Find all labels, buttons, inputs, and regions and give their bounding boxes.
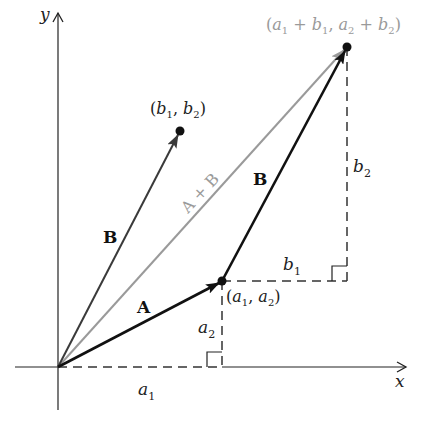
label-point-a: (a1, a2)	[226, 287, 281, 308]
point-b	[176, 127, 185, 136]
point-a	[218, 277, 227, 286]
vector-b-from-origin	[58, 135, 178, 367]
label-point-sum: (a1 + b1, a2 + b2)	[266, 15, 401, 36]
point-sum	[343, 43, 352, 52]
label-a2: a2	[198, 317, 215, 341]
right-angle-marker-b	[332, 266, 347, 281]
x-axis-label: x	[395, 371, 405, 391]
right-angle-marker-a	[207, 352, 222, 367]
label-vector-b-right: B	[253, 169, 267, 189]
vector-addition-diagram: y x A B B A + B a1 a2 b1 b2 (a1, a2) (b1…	[0, 0, 422, 425]
label-b1: b1	[283, 254, 301, 278]
label-vector-a: A	[136, 297, 151, 317]
label-point-b: (b1, b2)	[150, 99, 206, 120]
label-b2: b2	[353, 156, 371, 180]
label-a1: a1	[138, 379, 155, 403]
vector-a	[58, 283, 219, 367]
y-axis-label: y	[39, 4, 50, 24]
label-vector-b-left: B	[103, 227, 117, 247]
